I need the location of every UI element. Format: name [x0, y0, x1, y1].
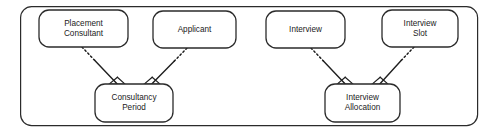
- entity-interview-slot[interactable]: Interview Slot: [382, 10, 458, 47]
- entity-consultancy-period[interactable]: Consultancy Period: [95, 84, 173, 122]
- entity-label-line-2: Slot: [413, 29, 428, 38]
- diagram-svg: Placement Consultant Applicant Consultan…: [0, 0, 497, 136]
- er-diagram-canvas: Placement Consultant Applicant Consultan…: [0, 0, 497, 136]
- entity-placement-consultant[interactable]: Placement Consultant: [39, 10, 128, 47]
- entity-label-line-1: Interview: [346, 93, 379, 102]
- entity-label-line-1: Consultancy: [111, 93, 157, 102]
- entity-label-line-1: Applicant: [178, 25, 212, 34]
- entity-label-line-1: Interview: [404, 19, 437, 28]
- entity-label-line-2: Period: [122, 103, 146, 112]
- entity-interview[interactable]: Interview: [266, 11, 345, 48]
- entity-label-line-1: Placement: [64, 19, 103, 28]
- entity-applicant[interactable]: Applicant: [153, 11, 236, 48]
- entity-label-line-1: Interview: [289, 25, 322, 34]
- entity-interview-allocation[interactable]: Interview Allocation: [325, 84, 400, 122]
- entity-label-line-2: Allocation: [345, 103, 381, 112]
- entity-label-line-2: Consultant: [64, 29, 104, 38]
